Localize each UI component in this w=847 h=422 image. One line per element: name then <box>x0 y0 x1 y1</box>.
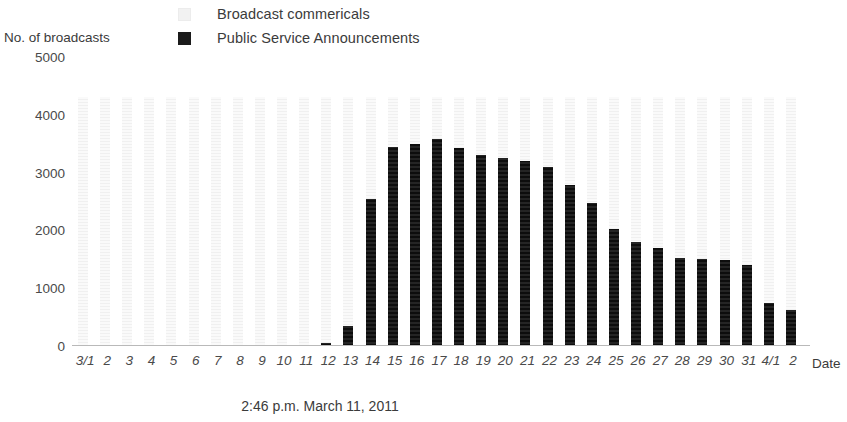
bar-broadcast-commercials <box>100 97 110 346</box>
bar-broadcast-commercials <box>166 97 176 346</box>
bar-public-service-announcements <box>476 155 486 346</box>
x-axis-tick-label: 22 <box>542 353 557 368</box>
bar-broadcast-commercials <box>189 97 199 346</box>
bar-broadcast-commercials <box>255 97 265 346</box>
legend-label-broadcast-commercials: Broadcast commericals <box>217 6 370 22</box>
bar-public-service-announcements <box>653 248 663 346</box>
x-axis-tick-label: 2 <box>103 353 111 368</box>
y-axis-tick-label: 2000 <box>35 223 65 238</box>
x-axis-tick-label: 28 <box>675 353 690 368</box>
y-axis-tick-label: 1000 <box>35 281 65 296</box>
x-axis-tick-label: 11 <box>299 353 313 368</box>
y-axis-tick-label: 0 <box>57 339 65 354</box>
x-axis-tick-label: 24 <box>586 353 601 368</box>
x-axis-tick-label: 20 <box>498 353 513 368</box>
chart-plot-area: 010002000300040005000 3/1234567891011121… <box>74 57 804 346</box>
bar-public-service-announcements <box>786 310 796 346</box>
bar-public-service-announcements <box>720 260 730 346</box>
bar-broadcast-commercials <box>144 97 154 346</box>
bar-public-service-announcements <box>343 326 353 346</box>
bar-public-service-announcements <box>565 185 575 346</box>
bar-public-service-announcements <box>543 167 553 346</box>
x-axis-tick-label: 18 <box>454 353 469 368</box>
x-axis-tick-label: 25 <box>608 353 623 368</box>
x-axis-tick-label: 10 <box>277 353 292 368</box>
x-axis-tick-label: 13 <box>343 353 358 368</box>
x-axis-tick-label: 21 <box>520 353 535 368</box>
legend-item-public-service-announcements: Public Service Announcements <box>178 26 598 50</box>
legend-item-broadcast-commercials: Broadcast commericals <box>178 2 598 26</box>
bar-public-service-announcements <box>454 148 464 346</box>
bar-broadcast-commercials <box>78 97 88 346</box>
bar-public-service-announcements <box>764 303 774 346</box>
bar-broadcast-commercials <box>321 97 331 346</box>
x-axis-tick-label: 6 <box>192 353 200 368</box>
y-axis-tick-label: 4000 <box>35 107 65 122</box>
bar-public-service-announcements <box>410 144 420 346</box>
x-axis-tick-label: 19 <box>476 353 491 368</box>
bar-broadcast-commercials <box>211 97 221 346</box>
bar-broadcast-commercials <box>343 97 353 346</box>
bar-public-service-announcements <box>388 147 398 346</box>
bar-broadcast-commercials <box>122 97 132 346</box>
y-axis-title: No. of broadcasts <box>4 30 110 45</box>
x-axis-tick-label: 3/1 <box>76 353 95 368</box>
x-axis-tick-label: 7 <box>214 353 222 368</box>
dark-square-swatch-icon <box>178 32 191 45</box>
x-axis-tick-label: 26 <box>631 353 646 368</box>
x-axis-tick-label: 9 <box>258 353 266 368</box>
x-axis-tick-label: 4 <box>148 353 156 368</box>
x-axis-tick-label: 8 <box>236 353 244 368</box>
bar-public-service-announcements <box>498 158 508 346</box>
x-axis-tick-label: 31 <box>741 353 756 368</box>
bar-broadcast-commercials <box>233 97 243 346</box>
x-axis-tick-label: 27 <box>653 353 668 368</box>
x-axis-baseline <box>72 345 810 346</box>
x-axis-tick-label: 12 <box>321 353 336 368</box>
legend-label-public-service-announcements: Public Service Announcements <box>217 30 420 46</box>
bar-broadcast-commercials <box>786 97 796 346</box>
x-axis-tick-label: 4/1 <box>761 353 780 368</box>
x-axis-tick-label: 14 <box>365 353 380 368</box>
x-axis-tick-label: 15 <box>387 353 402 368</box>
x-axis-tick-label: 5 <box>170 353 178 368</box>
x-axis-title: Date <box>812 356 841 371</box>
x-axis-tick-label: 29 <box>697 353 712 368</box>
bar-broadcast-commercials <box>277 97 287 346</box>
bar-public-service-announcements <box>675 258 685 346</box>
bar-public-service-announcements <box>742 265 752 346</box>
x-axis-tick-label: 3 <box>126 353 134 368</box>
y-axis-tick-label: 3000 <box>35 165 65 180</box>
light-square-swatch-icon <box>178 8 191 21</box>
x-axis-tick-label: 23 <box>564 353 579 368</box>
bar-broadcast-commercials <box>299 97 309 346</box>
bar-public-service-announcements <box>609 229 619 346</box>
bar-public-service-announcements <box>432 139 442 346</box>
bar-public-service-announcements <box>697 259 707 346</box>
bar-public-service-announcements <box>587 203 597 346</box>
x-axis-tick-label: 30 <box>719 353 734 368</box>
bar-public-service-announcements <box>631 242 641 346</box>
bar-public-service-announcements <box>366 199 376 346</box>
x-axis-tick-label: 16 <box>409 353 424 368</box>
chart-legend: Broadcast commericals Public Service Ann… <box>178 2 598 50</box>
x-axis-tick-label: 17 <box>431 353 446 368</box>
bar-public-service-announcements <box>520 161 530 346</box>
x-axis-tick-label: 2 <box>789 353 797 368</box>
y-axis-tick-label: 5000 <box>35 50 65 65</box>
chart-caption: 2:46 p.m. March 11, 2011 <box>0 398 640 414</box>
